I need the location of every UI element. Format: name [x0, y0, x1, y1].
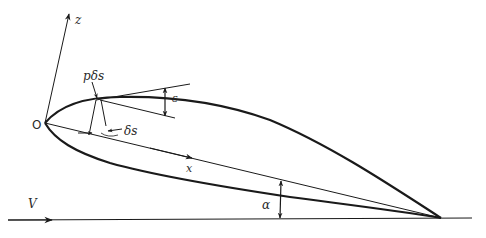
pressure-arrow: [92, 82, 97, 98]
element-length-leader: [108, 129, 122, 131]
z-axis-label: z: [74, 13, 82, 27]
normal-line-2: [101, 100, 106, 126]
freestream-label: V: [28, 197, 38, 211]
freestream-line: [8, 218, 472, 220]
alpha-label: α: [262, 198, 270, 212]
chord-parallel-line: [100, 100, 175, 118]
alpha-arrow: [280, 181, 281, 218]
epsilon-label: ε: [172, 92, 178, 105]
normal-line-1: [89, 100, 96, 135]
x-axis-label: x: [186, 162, 193, 175]
pressure-force-label: pδs: [83, 69, 104, 83]
aerofoil-diagram: O z x V pδs δs ε α: [0, 0, 486, 238]
element-length-label: δs: [124, 124, 137, 138]
origin-label: O: [32, 118, 41, 132]
x-axis-line: [45, 123, 441, 218]
x-axis-arrow: [150, 148, 192, 158]
element-arc: [101, 133, 118, 136]
